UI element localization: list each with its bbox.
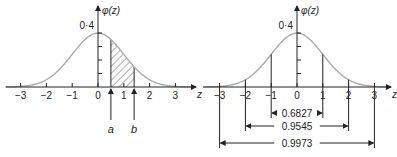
- x-tick-label: 0: [95, 90, 101, 101]
- annotation-label-b: b: [131, 123, 137, 135]
- x-tick-label: 2: [147, 90, 153, 101]
- interval-probability-label: 0.9973: [282, 138, 313, 149]
- x-tick-label: −2: [41, 90, 53, 101]
- interval-probability-label: 0.9545: [282, 121, 313, 132]
- normal-distribution-figure: zφ(z)0·4−3−2−10123ab zφ(z)0·4−3−2−101230…: [0, 0, 397, 157]
- left-chart-shaded-area: zφ(z)0·4−3−2−10123ab: [5, 5, 202, 135]
- x-tick-label: −3: [15, 90, 27, 101]
- y-axis-label: φ(z): [102, 5, 120, 16]
- y-axis-label: φ(z): [301, 5, 319, 16]
- right-chart-intervals: zφ(z)0·4−3−2−101230.68270.95450.9973: [203, 5, 397, 149]
- interval-probability-label: 0.6827: [282, 108, 313, 119]
- x-tick-label: 0: [294, 90, 300, 101]
- x-axis-label: z: [391, 89, 397, 100]
- annotation-label-a: a: [108, 123, 114, 135]
- x-tick-label: 3: [173, 90, 179, 101]
- x-tick-label: 1: [121, 90, 127, 101]
- y-tick-label: 0·4: [279, 20, 294, 31]
- x-axis-label: z: [196, 89, 202, 100]
- y-tick-label: 0·4: [80, 20, 95, 31]
- x-tick-label: −1: [66, 90, 78, 101]
